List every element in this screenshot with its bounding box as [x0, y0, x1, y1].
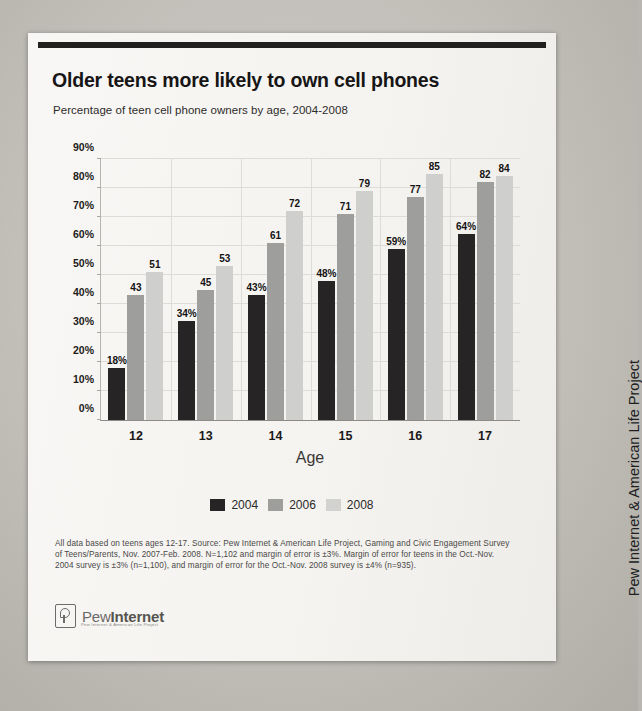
bar-value-label: 82 [480, 169, 491, 180]
bar-2006-age-16: 77 [407, 197, 424, 420]
bar-value-label: 72 [289, 198, 300, 209]
legend-item-2008[interactable]: 2008 [326, 498, 374, 512]
bar-2004-age-14: 43% [248, 295, 265, 420]
bar-2004-age-17: 64% [458, 234, 475, 420]
y-axis-label: 20% [73, 344, 94, 356]
bar-2006-age-17: 82 [477, 182, 494, 420]
bar-2008-age-17: 84 [496, 176, 513, 420]
x-axis-label-16: 16 [380, 429, 450, 443]
pew-internet-logo: PewInternet Pew Internet & American Life… [55, 604, 164, 628]
bar-group-age-13: 34%455313 [171, 159, 241, 420]
x-axis-label-17: 17 [450, 429, 520, 443]
bar-2008-age-13: 53 [216, 266, 233, 420]
bar-value-label: 43% [247, 282, 267, 293]
bar-value-label: 18% [107, 355, 127, 366]
bar-value-label: 61 [270, 230, 281, 241]
report-card: Older teens more likely to own cell phon… [28, 33, 556, 661]
bar-value-label: 45 [200, 277, 211, 288]
group-separator [380, 159, 381, 420]
bar-group-age-17: 64%828417 [450, 159, 520, 420]
bar-2008-age-16: 85 [426, 174, 443, 421]
bar-2008-age-12: 51 [146, 272, 163, 420]
legend-item-2004[interactable]: 2004 [210, 498, 258, 512]
bar-2008-age-14: 72 [286, 211, 303, 420]
x-axis-label-14: 14 [241, 429, 311, 443]
group-separator [311, 159, 312, 420]
y-axis-label: 30% [73, 315, 94, 327]
bar-value-label: 64% [456, 221, 476, 232]
legend-swatch-2006 [268, 499, 283, 511]
bar-value-label: 85 [429, 161, 440, 172]
bar-2006-age-12: 43 [127, 295, 144, 420]
bar-value-label: 59% [386, 236, 406, 247]
bar-group-age-14: 43%617214 [241, 159, 311, 420]
x-axis-label-15: 15 [311, 429, 381, 443]
bar-group-age-16: 59%778516 [380, 159, 450, 420]
bar-value-label: 84 [499, 163, 510, 174]
x-axis-label-12: 12 [101, 429, 171, 443]
bar-2006-age-13: 45 [197, 290, 214, 421]
y-axis-label: 40% [73, 286, 94, 298]
pew-logo-tagline: Pew Internet & American Life Project [81, 622, 158, 627]
chart-canvas: 0%10%20%30%40%50%60%70%80%90%18%43511234… [100, 159, 520, 421]
x-axis-title: Age [100, 449, 520, 467]
legend-item-2006[interactable]: 2006 [268, 498, 316, 512]
bar-group-age-15: 48%717915 [311, 159, 381, 420]
bar-2004-age-16: 59% [388, 249, 405, 420]
chart-plot-area: 0%10%20%30%40%50%60%70%80%90%18%43511234… [52, 131, 532, 471]
bar-value-label: 51 [149, 259, 160, 270]
bar-2008-age-15: 79 [356, 191, 373, 420]
bar-value-label: 53 [219, 253, 230, 264]
bar-value-label: 79 [359, 178, 370, 189]
legend-label-2004: 2004 [231, 498, 258, 512]
bar-2006-age-14: 61 [267, 243, 284, 420]
group-separator [450, 159, 451, 420]
bar-value-label: 77 [410, 184, 421, 195]
group-separator [241, 159, 242, 420]
bar-2004-age-13: 34% [178, 321, 195, 420]
bar-group-age-12: 18%435112 [101, 159, 171, 420]
group-separator [171, 159, 172, 420]
bar-value-label: 34% [177, 308, 197, 319]
bar-2004-age-12: 18% [108, 368, 125, 420]
bar-value-label: 71 [340, 201, 351, 212]
y-axis-label: 10% [73, 373, 94, 385]
y-axis-label: 60% [73, 228, 94, 240]
legend-swatch-2008 [326, 499, 341, 511]
bar-2004-age-15: 48% [318, 281, 335, 420]
y-axis-label: 80% [73, 170, 94, 182]
chart-title: Older teens more likely to own cell phon… [52, 69, 439, 92]
bar-value-label: 48% [316, 268, 336, 279]
chart-subtitle: Percentage of teen cell phone owners by … [53, 104, 348, 116]
legend-label-2006: 2006 [289, 498, 316, 512]
y-axis-label: 90% [73, 141, 94, 153]
legend-swatch-2004 [210, 499, 225, 511]
page-side-caption: Pew Internet & American Life Project [626, 360, 642, 596]
y-axis-label: 50% [73, 257, 94, 269]
pew-logo-icon [55, 604, 76, 628]
x-axis-label-13: 13 [171, 429, 241, 443]
bar-2006-age-15: 71 [337, 214, 354, 420]
chart-footnote: All data based on teens ages 12-17. Sour… [55, 538, 511, 572]
top-rule-divider [38, 42, 546, 48]
bar-value-label: 43 [130, 282, 141, 293]
legend-label-2008: 2008 [347, 498, 374, 512]
chart-legend: 200420062008 [52, 498, 532, 512]
y-axis-label: 0% [79, 402, 94, 414]
y-axis-label: 70% [73, 199, 94, 211]
